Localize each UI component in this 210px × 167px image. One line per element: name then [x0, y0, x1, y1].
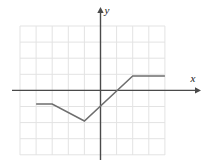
coordinate-plane-plot: yx [0, 0, 210, 167]
plot-background [0, 0, 210, 167]
graph-figure: yx [0, 0, 210, 167]
x-axis-label: x [190, 72, 196, 84]
y-axis-label: y [104, 4, 110, 16]
